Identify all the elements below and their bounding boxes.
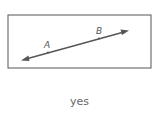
point-a-label: A — [43, 40, 50, 50]
line-diagram: A B — [0, 0, 159, 80]
arrowhead-right-icon — [121, 30, 130, 36]
line-ab — [26, 32, 124, 59]
answer-text: yes — [0, 95, 159, 108]
point-b-label: B — [96, 26, 102, 36]
diagram-svg: A B — [0, 0, 159, 80]
point-b-marker — [98, 38, 100, 40]
point-a-marker — [47, 52, 49, 54]
diagram-frame — [8, 15, 151, 68]
arrowhead-left-icon — [21, 56, 30, 62]
